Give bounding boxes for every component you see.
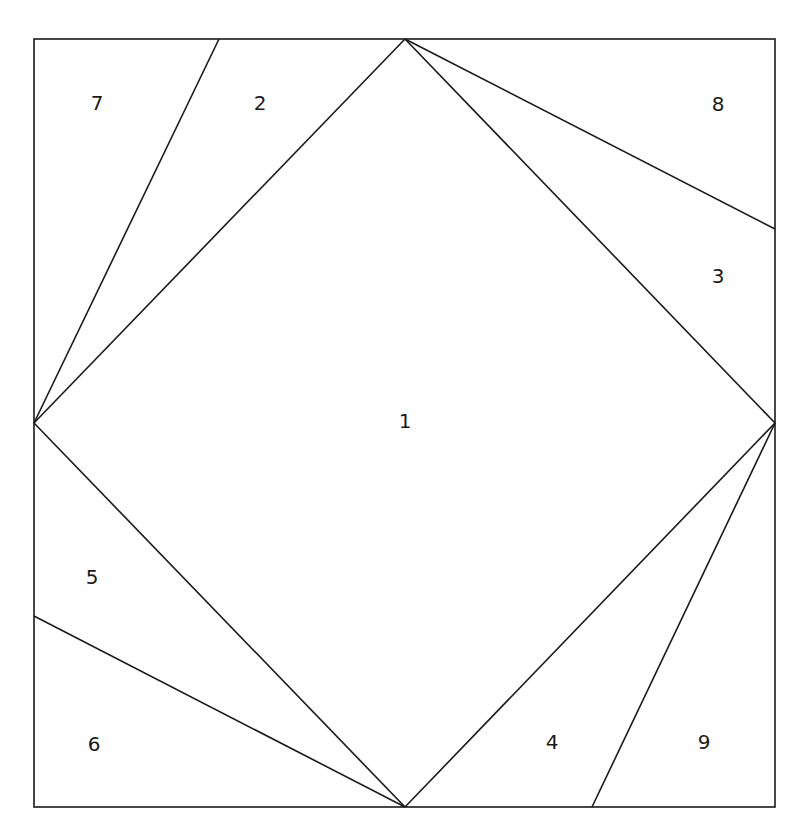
piece-label-9: 9 bbox=[698, 732, 711, 752]
piece-label-3: 3 bbox=[712, 266, 725, 286]
quilt-block-diagram: 1 2 3 4 5 6 7 8 9 bbox=[0, 0, 804, 827]
piece-label-6: 6 bbox=[88, 734, 101, 754]
split-line-4-9 bbox=[592, 423, 775, 807]
piece-label-7: 7 bbox=[91, 93, 104, 113]
piece-label-5: 5 bbox=[86, 567, 99, 587]
piece-label-8: 8 bbox=[712, 94, 725, 114]
diamond-bottom-right-edge bbox=[405, 423, 775, 807]
split-line-5-6 bbox=[34, 616, 405, 807]
piece-label-2: 2 bbox=[254, 93, 267, 113]
split-line-7-2 bbox=[34, 39, 219, 423]
split-line-8-3 bbox=[405, 39, 775, 229]
piece-label-4: 4 bbox=[546, 732, 559, 752]
piece-label-1: 1 bbox=[399, 411, 412, 431]
